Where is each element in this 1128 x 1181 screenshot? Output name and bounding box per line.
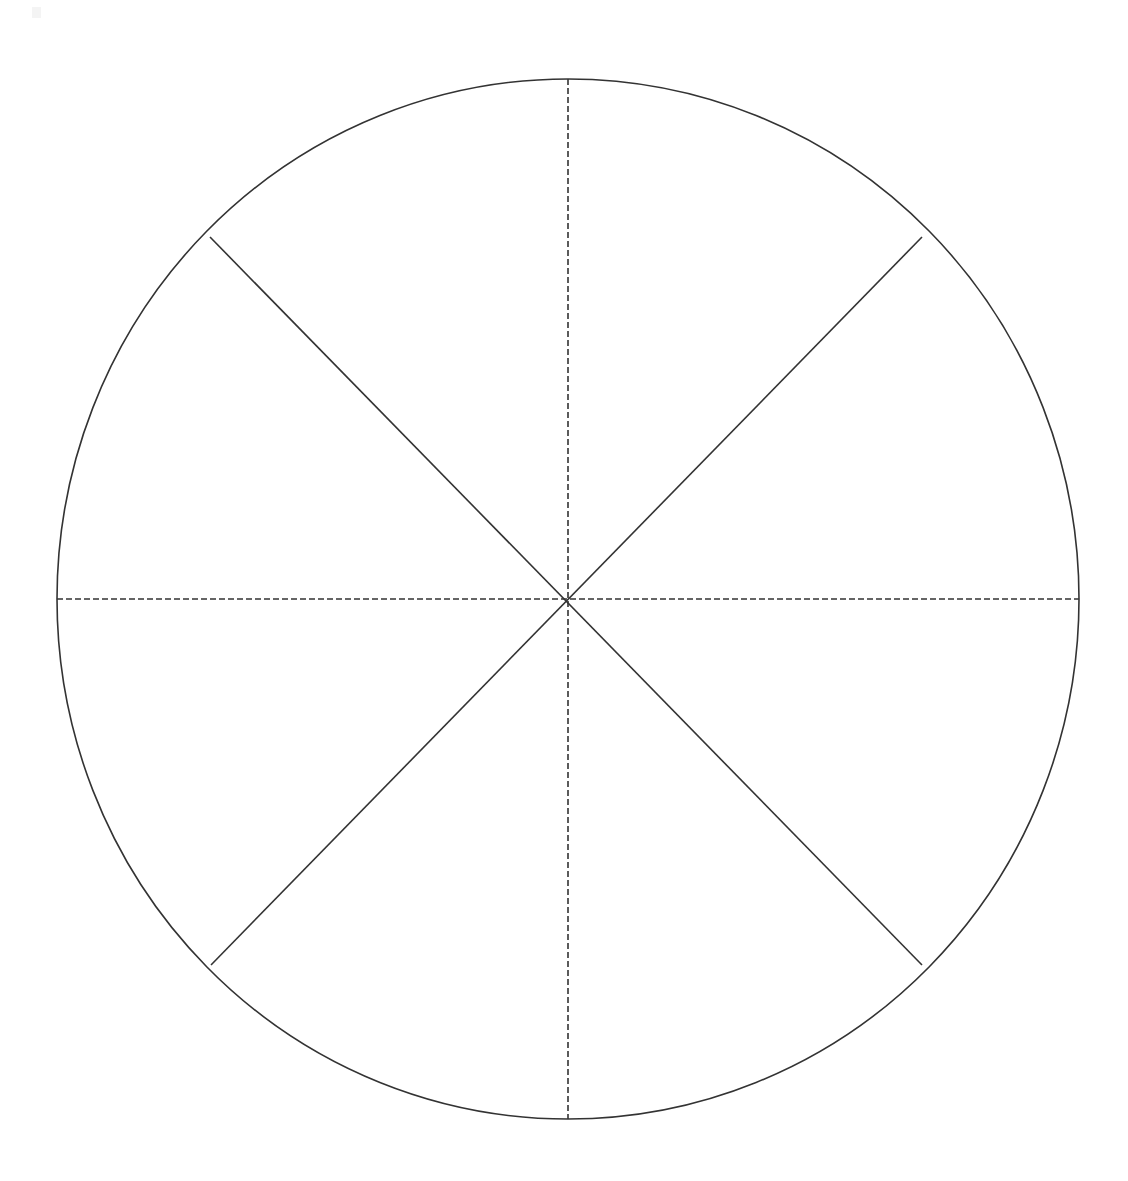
eight-sector-circle-svg [0, 0, 1128, 1181]
page-background [0, 0, 1128, 1181]
figure-canvas [0, 0, 1128, 1181]
scan-speck-artifact [32, 7, 41, 18]
